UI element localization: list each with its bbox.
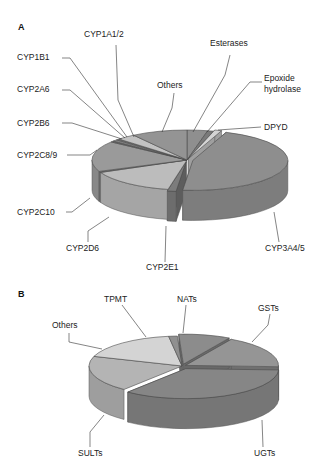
label-others-b: Others (52, 320, 78, 330)
label-cyp1a1-2: CYP1A1/2 (84, 29, 124, 39)
leader-cyp2c10 (66, 198, 90, 212)
leader-sults (90, 415, 104, 447)
label-cyp1b1: CYP1B1 (17, 52, 50, 62)
leader-cyp2b6 (62, 123, 122, 139)
figure-caption-fragment (0, 459, 329, 468)
slice-side-cyp2e1 (167, 191, 176, 221)
leader-cyp2a6 (62, 90, 125, 138)
leader-cyp3a4-5 (274, 212, 279, 242)
leader-esterases (193, 55, 230, 132)
leader-ugts (262, 420, 263, 447)
leader-epoxide-hydrolase (207, 82, 262, 132)
leader-dpyd (218, 127, 261, 130)
label-dpyd: DPYD (264, 122, 288, 132)
label-cyp2a6: CYP2A6 (17, 84, 50, 94)
pie-chart-a (92, 130, 288, 221)
label-cyp2b6: CYP2B6 (17, 118, 50, 128)
leader-others-b (69, 333, 102, 349)
label-tpmt: TPMT (104, 294, 127, 304)
leader-tpmt (122, 305, 146, 337)
label-others-a: Others (157, 80, 183, 90)
panel-a-letter: A (18, 22, 25, 32)
leader-nats (183, 305, 186, 333)
leader-others-a (162, 93, 174, 132)
label-nats: NATs (177, 294, 197, 304)
label-cyp2d6: CYP2D6 (66, 243, 99, 253)
label-epoxide-hydrolase-line2: hydrolase (264, 84, 301, 94)
pie-chart-b (89, 334, 279, 429)
label-gsts: GSTs (258, 303, 279, 313)
leader-cyp2d6 (88, 217, 109, 242)
label-ugts: UGTs (254, 448, 275, 458)
leader-cyp1b1 (62, 58, 127, 137)
leader-cyp2e1 (165, 226, 166, 262)
leader-gsts (252, 314, 270, 342)
label-cyp3a4-5: CYP3A4/5 (265, 243, 305, 253)
label-esterases: Esterases (210, 38, 248, 48)
label-cyp2c10: CYP2C10 (17, 207, 55, 217)
panel-b-letter: B (18, 289, 25, 299)
label-cyp2c8-9: CYP2C8/9 (17, 150, 57, 160)
leader-cyp1a1-2 (116, 45, 134, 137)
figure: A CYP1A1/2 CYP1B1 CYP2A6 CYP2B6 CYP2C8/9… (0, 0, 329, 468)
leader-cyp2c8-9 (67, 150, 97, 155)
label-epoxide-hydrolase-line1: Epoxide (264, 73, 295, 83)
label-sults: SULTs (78, 448, 102, 458)
label-cyp2e1: CYP2E1 (146, 262, 179, 272)
